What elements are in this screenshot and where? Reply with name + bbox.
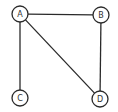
node-d-label: D [97, 95, 103, 104]
edges-group [20, 14, 101, 93]
node-d: D [92, 91, 108, 107]
node-b-label: B [98, 11, 104, 20]
node-b: B [93, 7, 109, 23]
node-a: A [12, 6, 28, 22]
node-a-label: A [17, 10, 23, 19]
node-c: C [12, 90, 28, 106]
node-c-label: C [17, 94, 23, 103]
edge-a-b [28, 14, 93, 15]
edge-b-d [100, 23, 101, 91]
graph-diagram: A B C D [0, 0, 118, 112]
edge-a-d [25, 20, 94, 93]
